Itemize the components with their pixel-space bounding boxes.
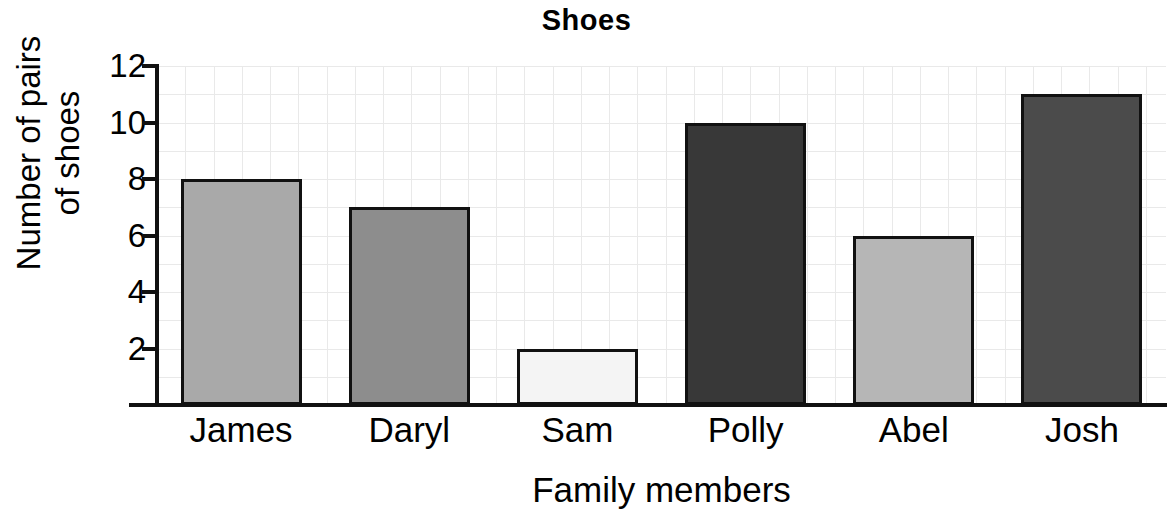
gridline-horizontal bbox=[157, 123, 1166, 124]
bar-chart-figure: Shoes Number of pairs of shoes 24681012 … bbox=[0, 0, 1173, 532]
x-axis-tick-label: James bbox=[157, 412, 325, 447]
y-axis-tick-label: 2 bbox=[92, 332, 146, 365]
x-axis-tick-label: Polly bbox=[662, 412, 830, 447]
gridline-horizontal bbox=[157, 264, 1166, 265]
bar bbox=[517, 349, 638, 406]
gridline-horizontal bbox=[157, 292, 1166, 293]
plot-area bbox=[157, 66, 1166, 405]
gridline-vertical bbox=[496, 66, 497, 405]
y-axis-tick-label: 10 bbox=[92, 106, 146, 139]
gridline-horizontal bbox=[157, 207, 1166, 208]
gridline-horizontal bbox=[157, 320, 1166, 321]
y-axis-tick-label: 12 bbox=[92, 49, 146, 82]
grid-lines bbox=[157, 66, 1166, 405]
gridline-horizontal bbox=[157, 94, 1166, 95]
gridline-horizontal bbox=[157, 179, 1166, 180]
x-axis-tick-label: Josh bbox=[998, 412, 1166, 447]
gridline-horizontal bbox=[157, 151, 1166, 152]
x-axis-tick-label: Sam bbox=[493, 412, 661, 447]
bar bbox=[685, 123, 806, 406]
gridline-vertical bbox=[976, 66, 977, 405]
y-axis-label-text: Number of pairs of shoes bbox=[10, 36, 88, 271]
x-axis-tick-label: Daryl bbox=[325, 412, 493, 447]
y-axis-tick-labels: 24681012 bbox=[92, 0, 146, 532]
x-axis-tick-label: Abel bbox=[830, 412, 998, 447]
y-axis-label: Number of pairs of shoes bbox=[0, 0, 104, 338]
bar bbox=[1021, 94, 1142, 405]
y-axis-tick-mark bbox=[142, 177, 158, 181]
y-axis-tick-mark bbox=[142, 290, 158, 294]
x-axis-spine bbox=[129, 403, 1167, 407]
gridline-vertical bbox=[1146, 66, 1147, 405]
gridline-vertical bbox=[835, 66, 836, 405]
gridline-vertical bbox=[666, 66, 667, 405]
x-axis-tick-labels: JamesDarylSamPollyAbelJosh bbox=[157, 412, 1166, 468]
y-axis-tick-label: 8 bbox=[92, 162, 146, 195]
gridline-horizontal bbox=[157, 236, 1166, 237]
gridline-vertical bbox=[327, 66, 328, 405]
bar bbox=[349, 207, 470, 405]
bar bbox=[853, 236, 974, 406]
gridline-horizontal bbox=[157, 349, 1166, 350]
y-axis-tick-label: 4 bbox=[92, 275, 146, 308]
y-axis-tick-mark bbox=[142, 64, 158, 68]
y-axis-tick-mark bbox=[142, 121, 158, 125]
gridline-vertical bbox=[807, 66, 808, 405]
gridline-horizontal bbox=[157, 377, 1166, 378]
y-axis-tick-mark bbox=[142, 347, 158, 351]
x-axis-label: Family members bbox=[157, 470, 1166, 510]
gridline-horizontal bbox=[157, 66, 1166, 67]
page-title: Shoes bbox=[0, 4, 1173, 37]
y-axis-tick-label: 6 bbox=[92, 219, 146, 252]
gridline-vertical bbox=[1005, 66, 1006, 405]
y-axis-tick-mark bbox=[142, 234, 158, 238]
bar bbox=[181, 179, 302, 405]
